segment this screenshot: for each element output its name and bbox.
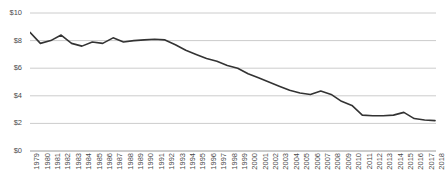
x-tick-label: 1997 <box>220 153 229 170</box>
y-tick-label: $6 <box>0 64 26 72</box>
x-tick-label: 2011 <box>366 153 375 169</box>
x-tick-label: 1998 <box>231 153 240 170</box>
x-tick-label: 2005 <box>303 153 312 170</box>
y-tick-label: $2 <box>0 119 26 127</box>
x-tick-label: 1992 <box>168 153 177 170</box>
y-tick-label: $4 <box>0 92 26 100</box>
x-tick-label: 1984 <box>85 153 94 170</box>
x-tick-label: 2010 <box>355 153 364 170</box>
x-tick-label: 2016 <box>417 153 426 170</box>
x-tick-label: 1986 <box>106 153 115 170</box>
x-tick-label: 2002 <box>272 153 281 170</box>
x-tick-label: 2015 <box>407 153 416 170</box>
x-tick-label: 1981 <box>54 153 63 170</box>
x-tick-label: 1995 <box>199 153 208 170</box>
x-tick-label: 1983 <box>75 153 84 170</box>
x-tick-label: 1991 <box>158 153 167 170</box>
x-tick-label: 2006 <box>314 153 323 170</box>
x-tick-label: 2000 <box>251 153 260 170</box>
y-tick-label: $0 <box>0 147 26 155</box>
x-tick-label: 2007 <box>324 153 333 170</box>
x-tick-label: 2017 <box>428 153 437 170</box>
x-tick-label: 1993 <box>179 153 188 170</box>
x-tick-label: 1980 <box>44 153 53 170</box>
x-tick-label: 1979 <box>33 153 42 170</box>
x-tick-label: 1988 <box>127 153 136 170</box>
x-tick-label: 1989 <box>137 153 146 170</box>
x-tick-label: 1996 <box>210 153 219 170</box>
x-tick-label: 2004 <box>293 153 302 170</box>
y-tick-label: $8 <box>0 37 26 45</box>
x-axis: 1979198019811982198319841985198619871988… <box>30 153 436 196</box>
x-tick-label: 1994 <box>189 153 198 170</box>
x-tick-label: 1999 <box>241 153 250 170</box>
x-tick-label: 1990 <box>147 153 156 170</box>
x-tick-label: 2018 <box>438 153 447 170</box>
x-tick-label: 1987 <box>116 153 125 170</box>
data-line <box>30 32 435 120</box>
x-tick-label: 2013 <box>386 153 395 170</box>
y-axis: $10$8$6$4$2$0 <box>0 0 26 196</box>
y-tick-label: $10 <box>0 9 26 17</box>
x-tick-label: 2009 <box>345 153 354 170</box>
x-tick-label: 2008 <box>334 153 343 170</box>
x-tick-label: 2012 <box>376 153 385 170</box>
x-tick-label: 2003 <box>282 153 291 170</box>
x-tick-label: 1982 <box>64 153 73 170</box>
x-tick-label: 2001 <box>262 153 271 170</box>
x-tick-label: 1985 <box>96 153 105 170</box>
x-tick-label: 2014 <box>397 153 406 170</box>
